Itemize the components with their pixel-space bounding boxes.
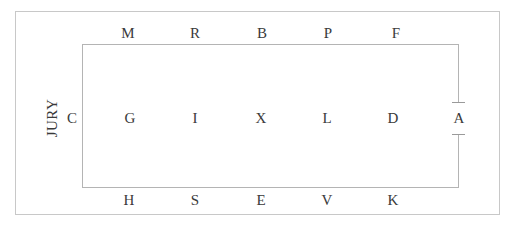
- seat-label-m[interactable]: M: [117, 26, 139, 41]
- seat-label-a[interactable]: A: [448, 111, 470, 126]
- seat-label-k[interactable]: K: [382, 193, 404, 208]
- seat-label-l[interactable]: L: [316, 111, 338, 126]
- jury-seating-diagram: JURY M R B P F C G I X L D A H S E V K: [0, 0, 514, 234]
- seat-label-v[interactable]: V: [316, 193, 338, 208]
- seat-label-g[interactable]: G: [119, 111, 141, 126]
- seat-label-p[interactable]: P: [317, 26, 339, 41]
- seat-label-b[interactable]: B: [251, 26, 273, 41]
- seat-label-h[interactable]: H: [118, 193, 140, 208]
- jury-box-gap-cap-top: [452, 102, 465, 103]
- seat-label-i[interactable]: I: [184, 111, 206, 126]
- jury-box-gap-cap-bottom: [452, 134, 465, 135]
- seat-label-c[interactable]: C: [61, 111, 83, 126]
- jury-box-top-edge: [82, 44, 459, 45]
- seat-label-f[interactable]: F: [385, 26, 407, 41]
- seat-label-r[interactable]: R: [184, 26, 206, 41]
- seat-label-e[interactable]: E: [250, 193, 272, 208]
- jury-box-bottom-edge: [82, 187, 459, 188]
- jury-box-right-edge-upper: [458, 44, 459, 102]
- jury-side-label: JURY: [44, 99, 61, 138]
- seat-label-s[interactable]: S: [184, 193, 206, 208]
- seat-label-x[interactable]: X: [250, 111, 272, 126]
- jury-box-right-edge-lower: [458, 134, 459, 188]
- seat-label-d[interactable]: D: [382, 111, 404, 126]
